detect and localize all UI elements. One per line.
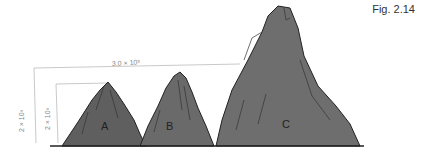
peak-c: C [216,6,360,146]
peak-a-label: A [101,120,109,132]
peak-a: A [62,82,146,146]
peak-b: B [140,72,214,146]
height-annotation: 2 × 10³ [44,107,51,130]
outer-height-annotation: 2 × 10³ [18,109,25,132]
peak-b-label: B [166,120,173,132]
mountains-diagram: A B C 3.0 × 10³ 2 × 10³ 2 × 10³ [0,0,421,156]
peak-c-label: C [282,118,290,130]
width-annotation: 3.0 × 10³ [112,59,141,67]
